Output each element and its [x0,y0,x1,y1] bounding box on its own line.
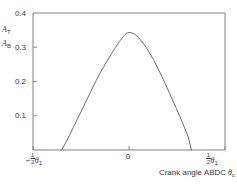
data-curve [62,33,192,150]
plot-area [0,0,237,187]
y-tick-marks [33,47,37,116]
axes-frame [33,13,225,150]
chart-figure: AT AB 0.4 0.3 0.2 0.1 −12θ1 0 12θ1 Crank… [0,0,237,187]
